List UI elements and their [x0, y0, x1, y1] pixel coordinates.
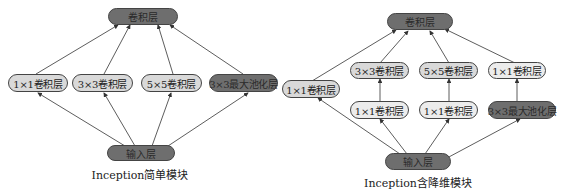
right-input-node: 输入层 [385, 153, 451, 170]
left-branch-3x3-maxpool: 3×3最大池化层 [209, 74, 278, 92]
right-output-conv-node: 卷积层 [387, 13, 453, 30]
right-upper-1x1-conv: 1×1卷积层 [488, 62, 546, 79]
right-branch-1x1-conv: 1×1卷积层 [282, 80, 340, 98]
left-output-conv-node: 卷积层 [108, 8, 178, 25]
edge-layer [0, 0, 562, 191]
right-module-caption: Inception含降维模块 [364, 174, 472, 190]
right-lower-1x1-conv-b: 1×1卷积层 [419, 101, 478, 119]
left-input-node: 输入层 [107, 145, 175, 161]
right-lower-3x3-maxpool: 3×3最大池化层 [488, 101, 556, 119]
left-module-caption: Inception简单模块 [92, 166, 189, 182]
left-branch-5x5-conv: 5×5卷积层 [141, 74, 202, 92]
left-branch-3x3-conv: 3×3卷积层 [72, 74, 133, 92]
left-branch-1x1-conv: 1×1卷积层 [8, 74, 68, 92]
right-lower-1x1-conv-a: 1×1卷积层 [350, 101, 409, 119]
right-upper-5x5-conv: 5×5卷积层 [419, 62, 478, 79]
right-upper-3x3-conv: 3×3卷积层 [350, 62, 409, 79]
